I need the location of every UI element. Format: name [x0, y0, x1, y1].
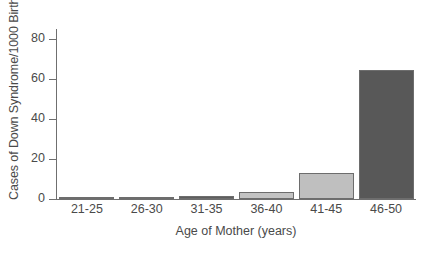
bars-layer [57, 29, 416, 199]
chart-figure: Cases of Down Syndrome/1000 Births 02040… [0, 0, 429, 256]
x-axis-title: Age of Mother (years) [56, 224, 416, 238]
bar-46-50 [359, 70, 414, 199]
y-axis-tick-label: 40 [31, 111, 45, 125]
y-axis-tick-label: 60 [31, 71, 45, 85]
y-axis-tick: 20 [49, 159, 56, 160]
y-axis-tick: 60 [49, 79, 56, 80]
y-axis-tick-label: 80 [31, 31, 45, 45]
y-axis-tick: 0 [49, 199, 56, 200]
x-axis-tick-label: 31-35 [177, 202, 237, 216]
x-axis-tick-label: 41-45 [296, 202, 356, 216]
bar-41-45 [299, 173, 354, 199]
x-axis-tick-label: 21-25 [57, 202, 117, 216]
y-axis-tick-mark [49, 39, 56, 40]
y-axis-tick-mark [49, 79, 56, 80]
bar-26-30 [119, 197, 174, 199]
y-axis-tick: 80 [49, 39, 56, 40]
bar-21-25 [59, 197, 114, 199]
x-axis-tick-label: 26-30 [117, 202, 177, 216]
x-axis-line [56, 199, 416, 200]
y-axis-tick-label: 20 [31, 151, 45, 165]
x-axis-tick-labels: 21-2526-3031-3536-4041-4546-50 [57, 202, 416, 222]
y-axis-tick: 40 [49, 119, 56, 120]
y-axis-tick-mark [49, 159, 56, 160]
y-axis-tick-mark [49, 119, 56, 120]
y-axis-title: Cases of Down Syndrome/1000 Births [2, 0, 26, 200]
bar-36-40 [239, 192, 294, 199]
bar-31-35 [179, 196, 234, 199]
x-axis-tick-label: 46-50 [356, 202, 416, 216]
caption-remnant [6, 248, 406, 254]
y-axis-tick-label: 0 [38, 191, 45, 205]
x-axis-tick-label: 36-40 [237, 202, 297, 216]
y-axis-tick-mark [49, 199, 56, 200]
